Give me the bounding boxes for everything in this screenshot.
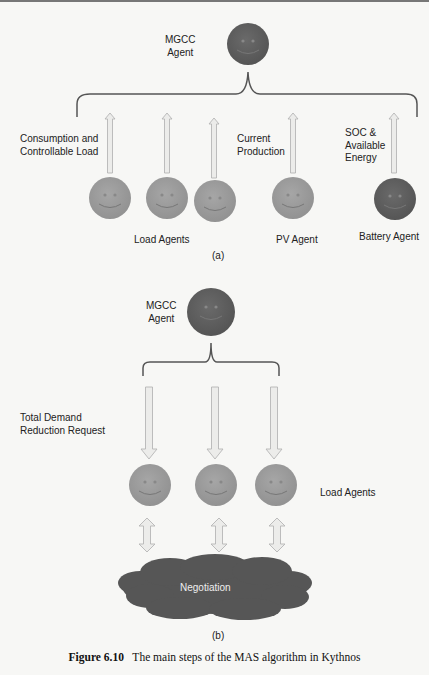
load-agents-label-a: Load Agents [134,234,190,247]
sublabel-b: (b) [212,630,224,643]
bracket-b [143,343,279,376]
double-arrow-2 [211,518,227,552]
load-agents-label-b: Load Agents [320,487,376,500]
soc-line2: Available [345,140,385,153]
soc-label: SOC & Available Energy [345,127,385,165]
double-arrow-1 [139,518,155,552]
pv-agent [272,177,314,219]
consumption-label: Consumption and Controllable Load [20,133,98,158]
up-arrow-load-1 [105,113,115,173]
mgcc-b-line2: Agent [146,313,177,326]
load-agent-2 [146,177,188,219]
mgcc-label-line1: MGCC [165,34,196,47]
down-arrow-2 [207,387,223,459]
request-line2: Reduction Request [20,425,105,438]
up-arrow-load-3 [209,118,219,178]
load-agent-b-1 [129,464,171,506]
mgcc-label-line2: Agent [165,47,196,60]
negotiation-label: Negotiation [180,582,231,593]
production-label: Current Production [237,133,285,158]
mgcc-agent-a-label: MGCC Agent [165,34,196,59]
up-arrow-pv [288,113,298,173]
bracket-a [77,72,417,117]
pv-agent-label: PV Agent [276,234,318,247]
mgcc-agent-b-label: MGCC Agent [146,300,177,325]
down-arrow-3 [266,387,282,459]
battery-agent-label: Battery Agent [359,231,419,244]
mas-algorithm-diagram [0,0,429,675]
mgcc-agent-a [227,23,269,65]
mgcc-agent-b [187,288,235,336]
consumption-line1: Consumption and [20,133,98,146]
consumption-line2: Controllable Load [20,146,98,159]
load-agent-b-2 [195,464,237,506]
sublabel-a: (a) [212,250,224,263]
down-arrow-1 [141,387,157,459]
up-arrow-load-2 [162,113,172,173]
caption-text: The main steps of the MAS algorithm in K… [132,651,360,663]
figure-caption: Figure 6.10 The main steps of the MAS al… [0,651,429,663]
double-arrow-3 [269,518,285,552]
up-arrow-battery [389,113,399,173]
request-line1: Total Demand [20,412,105,425]
caption-number: Figure 6.10 [69,651,124,663]
soc-line3: Energy [345,152,385,165]
production-line2: Production [237,146,285,159]
load-agent-3 [194,180,236,222]
battery-agent [374,178,416,220]
demand-request-label: Total Demand Reduction Request [20,412,105,437]
mgcc-b-line1: MGCC [146,300,177,313]
soc-line1: SOC & [345,127,385,140]
production-line1: Current [237,133,285,146]
load-agent-1 [89,177,131,219]
load-agent-b-3 [255,464,297,506]
